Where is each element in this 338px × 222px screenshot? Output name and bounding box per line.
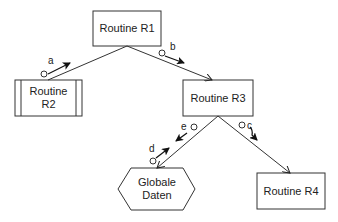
data-couple-a-circle xyxy=(41,71,47,77)
edge-r1-r2 xyxy=(48,46,127,80)
globale-daten-line-2: Daten xyxy=(142,189,171,202)
routine-r1-label: Routine R1 xyxy=(93,11,161,46)
data-flow-e-arrow xyxy=(176,133,187,141)
routine-r4-label: Routine R4 xyxy=(257,173,325,209)
flow-label-a: a xyxy=(48,55,54,66)
routine-r2-label: Routine R2 xyxy=(21,80,76,116)
globale-daten-line-1: Globale xyxy=(138,176,176,189)
flow-label-e: e xyxy=(181,121,187,132)
flow-label-d: d xyxy=(149,143,155,154)
flow-label-b: b xyxy=(170,41,176,52)
data-couple-c-circle xyxy=(239,122,245,128)
globale-daten-label: Globale Daten xyxy=(131,168,183,210)
data-flow-d-arrow xyxy=(156,148,169,158)
data-couple-b-circle xyxy=(159,50,165,56)
data-couple-d-circle xyxy=(150,158,156,164)
flow-label-c: c xyxy=(247,120,252,131)
edge-r3-globale xyxy=(157,116,218,168)
data-couple-e-circle xyxy=(191,124,197,130)
routine-r3-label: Routine R3 xyxy=(183,80,253,116)
edge-r3-r4 xyxy=(218,116,290,173)
